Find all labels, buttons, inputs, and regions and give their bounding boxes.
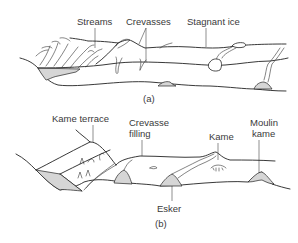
ice-remnant-surface — [116, 152, 275, 165]
label-moulin-kame-2: kame — [252, 128, 275, 139]
leader-crevasses-1 — [139, 28, 146, 44]
label-kame: Kame — [209, 131, 234, 142]
floor-mound-2 — [254, 82, 272, 89]
kame-terrace-stripes — [84, 164, 116, 190]
ice-margin-face — [96, 43, 118, 64]
lake-sediment — [38, 68, 80, 80]
esker — [160, 174, 182, 186]
kame-terrace-upper-edge — [36, 142, 90, 170]
right-fracture — [264, 48, 284, 82]
glacial-landforms-diagram: Streams Crevasses Stagnant ice — [0, 0, 298, 243]
panel-b-deglaciated: Kame terrace Crevasse filling Kame Mouli… — [16, 113, 290, 229]
kame-terrace-fill — [36, 170, 82, 191]
label-crevasse-filling-1: Crevasse — [129, 117, 169, 128]
kame-terrace-top — [76, 130, 116, 165]
label-kame-terrace: Kame terrace — [52, 113, 109, 124]
moulin-pool — [232, 43, 246, 48]
ice-surface-a — [70, 38, 286, 48]
ice-inner-line — [38, 58, 288, 68]
boulder-mark — [150, 167, 157, 169]
label-streams: Streams — [77, 16, 113, 27]
label-esker: Esker — [157, 203, 181, 214]
caption-b: (b) — [155, 218, 167, 229]
kame-mound — [211, 165, 226, 171]
streams — [36, 38, 102, 68]
crevasse-2 — [140, 59, 146, 70]
label-stagnant-ice: Stagnant ice — [187, 16, 240, 27]
label-crevasses: Crevasses — [126, 16, 171, 27]
label-crevasse-filling-2: filling — [129, 128, 151, 139]
panel-a-stagnant-ice: Streams Crevasses Stagnant ice — [20, 16, 288, 104]
caption-a: (a) — [143, 93, 155, 104]
crevasse-1 — [116, 57, 122, 74]
moulin-kame — [248, 172, 274, 184]
moulin-cavity — [208, 59, 221, 71]
crevasse-filling-mound — [114, 170, 132, 184]
label-moulin-kame-1: Moulin — [250, 117, 278, 128]
crevasse-filling-edge — [124, 160, 132, 170]
